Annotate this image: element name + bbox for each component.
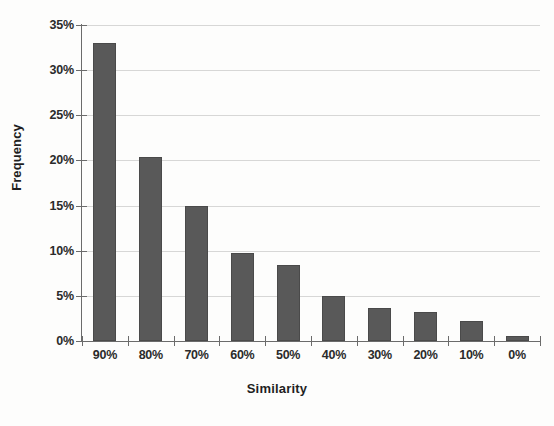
x-axis-tick-label: 50% xyxy=(265,348,311,362)
y-axis-tick-mark xyxy=(76,206,87,207)
bar xyxy=(185,206,208,341)
y-axis-tick-label: 0% xyxy=(30,334,74,348)
x-axis-tick-mark xyxy=(357,336,358,346)
bar xyxy=(368,308,391,341)
y-axis-tick-mark xyxy=(76,70,87,71)
gridline xyxy=(82,25,540,26)
bar xyxy=(414,312,437,341)
bar-chart: 0%5%10%15%20%25%30%35% Frequency Similar… xyxy=(0,0,554,426)
y-axis-tick-mark xyxy=(76,25,87,26)
x-axis-tick-label: 20% xyxy=(403,348,449,362)
x-axis-tick-mark xyxy=(82,336,83,346)
x-axis-tick-mark xyxy=(174,336,175,346)
x-axis-tick-label: 30% xyxy=(357,348,403,362)
x-axis-tick-mark xyxy=(219,336,220,346)
bar xyxy=(139,157,162,341)
plot-area xyxy=(82,25,540,341)
x-axis-tick-label: 40% xyxy=(311,348,357,362)
gridline xyxy=(82,70,540,71)
x-axis-tick-mark xyxy=(494,336,495,346)
y-axis-tick-label: 25% xyxy=(30,108,74,122)
x-axis-title: Similarity xyxy=(0,381,554,396)
x-axis-tick-label: 80% xyxy=(128,348,174,362)
bar xyxy=(506,336,529,341)
x-axis-tick-label: 70% xyxy=(174,348,220,362)
x-axis-tick-mark xyxy=(265,336,266,346)
x-axis-tick-label: 0% xyxy=(494,348,540,362)
bar xyxy=(460,321,483,341)
y-axis-tick-labels: 0%5%10%15%20%25%30%35% xyxy=(26,0,74,426)
y-axis-tick-label: 35% xyxy=(30,18,74,32)
x-axis-tick-mark xyxy=(540,336,541,346)
x-axis-tick-label: 10% xyxy=(448,348,494,362)
y-axis-tick-label: 10% xyxy=(30,244,74,258)
x-axis-tick-mark xyxy=(311,336,312,346)
y-axis-tick-label: 15% xyxy=(30,199,74,213)
y-axis-tick-label: 20% xyxy=(30,153,74,167)
bar xyxy=(322,296,345,341)
x-axis-tick-label: 90% xyxy=(82,348,128,362)
x-axis-tick-mark xyxy=(448,336,449,346)
x-axis-tick-mark xyxy=(403,336,404,346)
bar xyxy=(277,265,300,341)
bar xyxy=(231,253,254,341)
bar xyxy=(93,43,116,341)
x-axis-tick-label: 60% xyxy=(219,348,265,362)
y-axis-tick-mark xyxy=(76,160,87,161)
y-axis-tick-mark xyxy=(76,251,87,252)
y-axis-tick-label: 5% xyxy=(30,289,74,303)
y-axis-tick-label: 30% xyxy=(30,63,74,77)
gridline xyxy=(82,115,540,116)
y-axis-tick-mark xyxy=(76,115,87,116)
x-axis-tick-mark xyxy=(128,336,129,346)
y-axis-title: Frequency xyxy=(9,98,24,218)
y-axis-tick-mark xyxy=(76,296,87,297)
